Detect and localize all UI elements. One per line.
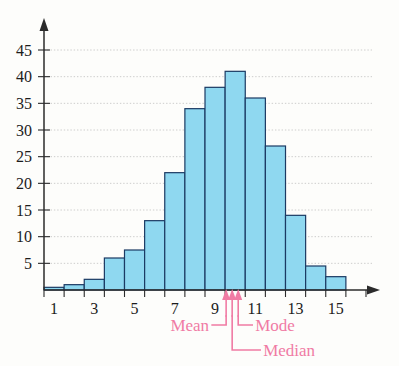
x-tick-label: 11 <box>248 300 263 317</box>
histogram-bar <box>265 146 285 290</box>
histogram-bar <box>104 258 124 290</box>
y-tick-label: 20 <box>16 175 32 192</box>
histogram-bar <box>286 215 306 290</box>
histogram-bar <box>245 98 265 290</box>
y-axis-arrow <box>40 18 49 31</box>
y-tick-label: 30 <box>16 122 32 139</box>
y-tick-label: 35 <box>16 95 32 112</box>
x-tick-label: 3 <box>90 300 98 317</box>
histogram-bar <box>225 71 245 290</box>
y-tick-label: 25 <box>16 148 32 165</box>
histogram-figure: 51015202530354045 13579111315 MeanModeMe… <box>0 0 399 366</box>
histogram-bar <box>205 87 225 290</box>
y-tick-label: 5 <box>24 255 32 272</box>
histogram-bar <box>145 221 165 290</box>
y-tick-labels: 51015202530354045 <box>16 42 32 272</box>
x-tick-label: 5 <box>131 300 139 317</box>
histogram-bar <box>84 279 104 290</box>
mean-label: Mean <box>170 316 209 335</box>
histogram-bar <box>326 277 346 290</box>
x-tick-label: 13 <box>288 300 304 317</box>
median-label: Median <box>263 341 315 360</box>
x-tick-label: 9 <box>211 300 219 317</box>
y-tick-label: 45 <box>16 42 32 59</box>
x-tick-labels: 13579111315 <box>50 300 344 317</box>
histogram-bar <box>64 285 84 290</box>
x-tick-label: 1 <box>50 300 58 317</box>
y-tick-label: 15 <box>16 202 32 219</box>
y-tick-label: 40 <box>16 68 32 85</box>
histogram-bar <box>165 173 185 290</box>
x-tick-label: 7 <box>171 300 179 317</box>
x-axis-arrow <box>367 286 380 295</box>
histogram-bar <box>306 266 326 290</box>
bar-series <box>44 71 346 290</box>
y-tick-label: 10 <box>16 228 32 245</box>
histogram-chart: 51015202530354045 13579111315 MeanModeMe… <box>0 0 399 366</box>
histogram-bar <box>185 109 205 290</box>
mode-label: Mode <box>255 316 295 335</box>
x-tick-label: 15 <box>328 300 344 317</box>
histogram-bar <box>125 250 145 290</box>
y-axis <box>38 18 50 290</box>
